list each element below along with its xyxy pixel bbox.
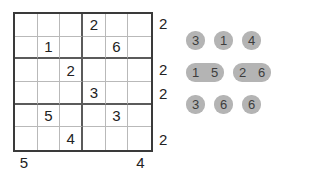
grid-cell-r2c6[interactable] bbox=[128, 37, 151, 60]
grid-cell-r4c6[interactable] bbox=[128, 82, 151, 105]
tray-tile[interactable]: 4 bbox=[242, 31, 261, 50]
column-clue-6: 4 bbox=[136, 155, 144, 170]
grid-cell-r6c4[interactable] bbox=[83, 127, 106, 150]
tile-group-3-3[interactable]: 6 bbox=[242, 95, 261, 114]
grid-cell-r1c1[interactable] bbox=[15, 14, 38, 37]
row-clue-6: 2 bbox=[159, 132, 167, 147]
row-clue-1: 2 bbox=[159, 16, 167, 31]
tray-row-2: 1526 bbox=[186, 62, 322, 82]
tile-group-1-3[interactable]: 4 bbox=[242, 31, 261, 50]
tray-tile[interactable]: 2 bbox=[233, 63, 252, 82]
grid-cell-r6c6[interactable] bbox=[128, 127, 151, 150]
grid-cell-r1c3[interactable] bbox=[60, 14, 83, 37]
grid-cell-r3c4[interactable] bbox=[83, 59, 106, 82]
tile-group-2-2[interactable]: 26 bbox=[233, 63, 271, 82]
grid-cell-r2c4[interactable] bbox=[83, 37, 106, 60]
tile-group-2-1[interactable]: 15 bbox=[186, 63, 224, 82]
tray-tile[interactable]: 1 bbox=[214, 31, 233, 50]
grid-cell-r3c5[interactable] bbox=[106, 59, 129, 82]
tray-row-1: 314 bbox=[186, 30, 322, 50]
grid-cell-r3c2[interactable] bbox=[38, 59, 61, 82]
grid-cell-r4c2[interactable] bbox=[38, 82, 61, 105]
row-clue-4: 2 bbox=[159, 86, 167, 101]
grid-cell-r5c5[interactable]: 3 bbox=[106, 105, 129, 128]
grid-cell-r2c1[interactable] bbox=[15, 37, 38, 60]
grid-cell-r5c1[interactable] bbox=[15, 105, 38, 128]
tile-group-1-2[interactable]: 1 bbox=[214, 31, 233, 50]
tray-tile[interactable]: 1 bbox=[186, 63, 205, 82]
grid-cell-r4c3[interactable] bbox=[60, 82, 83, 105]
puzzle-board-area: 21623534 2222 54 bbox=[0, 0, 180, 179]
grid-cell-r4c4[interactable]: 3 bbox=[83, 82, 106, 105]
grid-cell-r1c5[interactable] bbox=[106, 14, 129, 37]
grid-cell-r2c3[interactable] bbox=[60, 37, 83, 60]
grid-cell-r1c6[interactable] bbox=[128, 14, 151, 37]
grid-cell-r6c5[interactable] bbox=[106, 127, 129, 150]
grid-cell-r6c3[interactable]: 4 bbox=[60, 127, 83, 150]
grid-cell-r5c6[interactable] bbox=[128, 105, 151, 128]
grid-cell-r6c1[interactable] bbox=[15, 127, 38, 150]
tray-tile[interactable]: 5 bbox=[205, 63, 224, 82]
tray-tile[interactable]: 6 bbox=[252, 63, 271, 82]
tile-group-1-1[interactable]: 3 bbox=[186, 31, 205, 50]
grid-cell-r6c2[interactable] bbox=[38, 127, 61, 150]
puzzle-grid[interactable]: 21623534 bbox=[13, 12, 153, 152]
grid-cell-r2c2[interactable]: 1 bbox=[38, 37, 61, 60]
tray-tile[interactable]: 6 bbox=[242, 95, 261, 114]
grid-cell-r5c4[interactable] bbox=[83, 105, 106, 128]
tile-group-3-1[interactable]: 3 bbox=[186, 95, 205, 114]
row-clue-3: 2 bbox=[159, 62, 167, 77]
tile-group-3-2[interactable]: 6 bbox=[214, 95, 233, 114]
grid-cell-r4c1[interactable] bbox=[15, 82, 38, 105]
grid-cell-r1c2[interactable] bbox=[38, 14, 61, 37]
grid-cell-r3c6[interactable] bbox=[128, 59, 151, 82]
tray-row-3: 366 bbox=[186, 94, 322, 114]
grid-cell-r4c5[interactable] bbox=[106, 82, 129, 105]
tray-tile[interactable]: 3 bbox=[186, 31, 205, 50]
grid-cell-r5c3[interactable] bbox=[60, 105, 83, 128]
grid-cell-r2c5[interactable]: 6 bbox=[106, 37, 129, 60]
tray-tile[interactable]: 6 bbox=[214, 95, 233, 114]
grid-cell-r3c3[interactable]: 2 bbox=[60, 59, 83, 82]
grid-cell-r1c4[interactable]: 2 bbox=[83, 14, 106, 37]
grid-cell-r5c2[interactable]: 5 bbox=[38, 105, 61, 128]
column-clue-1: 5 bbox=[20, 155, 28, 170]
tile-tray[interactable]: 3141526366 bbox=[186, 30, 322, 126]
grid-cell-r3c1[interactable] bbox=[15, 59, 38, 82]
tray-tile[interactable]: 3 bbox=[186, 95, 205, 114]
